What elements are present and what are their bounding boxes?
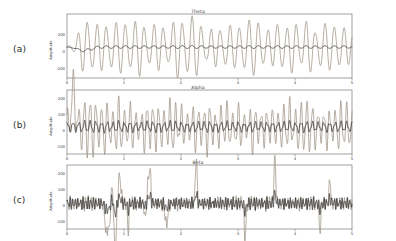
panel-beta: (c) Beta Amplitude 200 100 0 -100 0 1 2 … xyxy=(0,159,396,241)
panel-alpha: (b) Alpha Amplitude 200 100 0 -100 0 1 2… xyxy=(0,84,396,164)
panel-theta: (a) Theta Amplitude 200 0 -200 0 1 2 3 4… xyxy=(0,8,396,88)
eeg-band-figure: (a) Theta Amplitude 200 0 -200 0 1 2 3 4… xyxy=(0,0,396,241)
plot-area-beta xyxy=(0,159,396,239)
plot-area-theta xyxy=(0,8,396,88)
plot-area-alpha xyxy=(0,84,396,164)
